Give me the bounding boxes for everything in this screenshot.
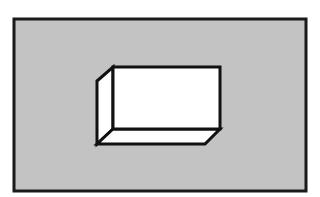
diagram-canvas <box>0 0 320 197</box>
box-front-face <box>113 67 220 129</box>
cuboid <box>97 67 220 144</box>
box-bottom-face <box>97 129 220 144</box>
